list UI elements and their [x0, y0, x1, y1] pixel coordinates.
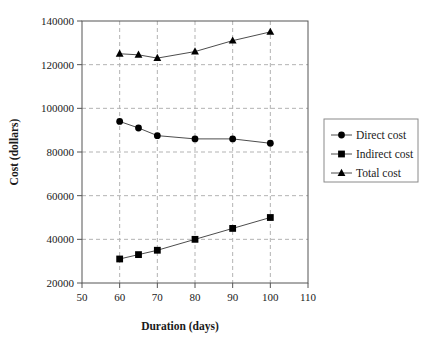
y-tick-label: 120000	[41, 59, 75, 71]
x-tick-label: 90	[227, 291, 239, 303]
x-axis-title: Duration (days)	[141, 320, 219, 333]
x-axis-ticks	[82, 283, 308, 288]
legend-item-label: Direct cost	[356, 129, 407, 141]
data-point-marker	[192, 236, 199, 243]
data-point-marker	[135, 125, 142, 132]
y-tick-label: 60000	[47, 190, 75, 202]
x-axis-tick-labels: 5060708090100110	[77, 291, 317, 303]
y-axis-title: Cost (dollars)	[8, 118, 21, 185]
chart-figure: 20000400006000080000100000120000140000 5…	[0, 0, 433, 342]
data-point-marker	[154, 247, 161, 254]
data-point-marker	[267, 214, 274, 221]
y-axis-ticks	[77, 21, 82, 283]
data-point-marker	[267, 140, 274, 147]
y-tick-label: 40000	[47, 233, 75, 245]
x-tick-label: 110	[300, 291, 317, 303]
data-point-marker	[192, 136, 199, 143]
legend-item-label: Total cost	[356, 167, 402, 179]
y-tick-label: 80000	[47, 146, 75, 158]
x-tick-label: 80	[190, 291, 202, 303]
y-tick-label: 100000	[41, 102, 75, 114]
legend: Direct costIndirect costTotal cost	[324, 119, 418, 182]
data-point-marker	[116, 256, 123, 263]
data-point-marker	[229, 136, 236, 143]
x-tick-label: 50	[77, 291, 89, 303]
x-tick-label: 70	[152, 291, 164, 303]
data-point-marker	[135, 251, 142, 258]
data-point-marker	[229, 225, 236, 232]
data-point-marker	[154, 132, 161, 139]
data-point-marker	[116, 118, 123, 125]
cost-vs-duration-line-chart: 20000400006000080000100000120000140000 5…	[0, 0, 433, 342]
legend-marker-square	[338, 151, 345, 158]
y-axis-tick-labels: 20000400006000080000100000120000140000	[41, 15, 75, 289]
x-tick-label: 60	[114, 291, 126, 303]
legend-marker-circle	[338, 132, 345, 139]
x-tick-label: 100	[262, 291, 279, 303]
legend-item-label: Indirect cost	[356, 148, 414, 160]
y-tick-label: 140000	[41, 15, 75, 27]
y-tick-label: 20000	[47, 277, 75, 289]
